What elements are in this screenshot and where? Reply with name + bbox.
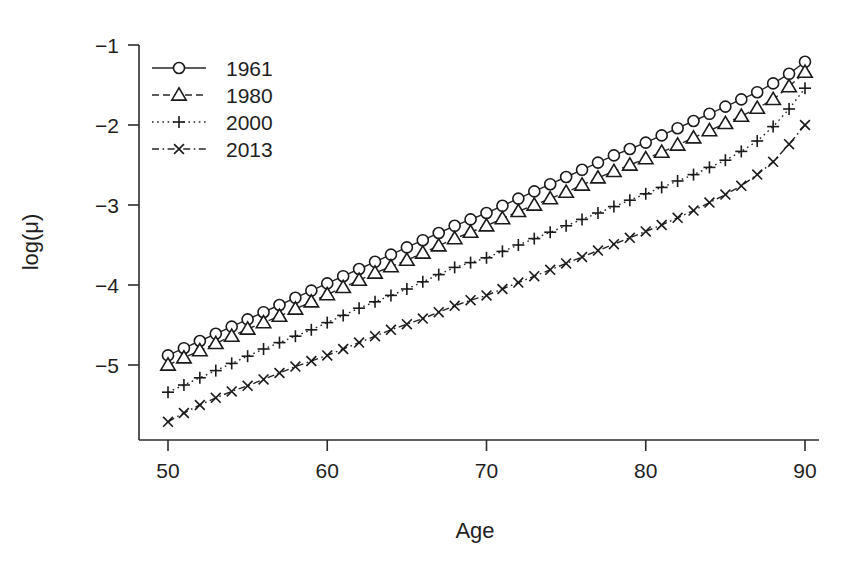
figure-background xyxy=(0,0,850,578)
circle-marker xyxy=(401,242,412,253)
legend-label: 1961 xyxy=(226,57,273,80)
circle-marker xyxy=(640,137,651,148)
circle-marker xyxy=(561,171,572,182)
x-tick-label: 50 xyxy=(156,459,179,482)
x-tick-label: 80 xyxy=(634,459,657,482)
circle-marker xyxy=(704,108,715,119)
circle-marker xyxy=(497,200,508,211)
y-tick-label: −3 xyxy=(95,194,119,217)
circle-marker xyxy=(417,235,428,246)
y-tick-label: −4 xyxy=(95,274,119,297)
circle-marker xyxy=(592,157,603,168)
chart-figure: −1−2−3−4−55060708090 1961198020002013 Ag… xyxy=(0,0,850,578)
circle-marker xyxy=(608,150,619,161)
x-tick-label: 90 xyxy=(793,459,816,482)
circle-marker xyxy=(672,123,683,134)
circle-marker xyxy=(624,143,635,154)
circle-marker xyxy=(688,115,699,126)
chart-canvas: −1−2−3−4−55060708090 1961198020002013 Ag… xyxy=(0,0,850,578)
legend-label: 2000 xyxy=(226,111,273,134)
circle-marker xyxy=(736,94,747,105)
circle-marker xyxy=(173,62,184,73)
legend-label: 2013 xyxy=(226,138,273,161)
circle-marker xyxy=(720,101,731,112)
circle-marker xyxy=(513,193,524,204)
circle-marker xyxy=(784,68,795,79)
circle-marker xyxy=(481,207,492,218)
circle-marker xyxy=(465,214,476,225)
circle-marker xyxy=(449,220,460,231)
circle-marker xyxy=(577,164,588,175)
y-tick-label: −5 xyxy=(95,354,119,377)
circle-marker xyxy=(656,130,667,141)
x-tick-label: 60 xyxy=(316,459,339,482)
circle-marker xyxy=(529,186,540,197)
y-axis-label: log(μ) xyxy=(18,214,43,271)
circle-marker xyxy=(768,78,779,89)
x-axis-label: Age xyxy=(455,518,494,543)
y-tick-label: −1 xyxy=(95,34,119,57)
y-tick-label: −2 xyxy=(95,114,119,137)
circle-marker xyxy=(545,179,556,190)
circle-marker xyxy=(752,87,763,98)
legend-label: 1980 xyxy=(226,84,273,107)
circle-marker xyxy=(433,227,444,238)
x-tick-label: 70 xyxy=(475,459,498,482)
